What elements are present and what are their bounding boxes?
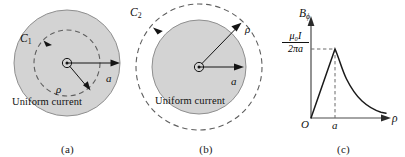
uniform-current-label-a: Uniform current [12,97,82,108]
b-phi-curve [311,49,386,118]
uniform-current-label-b: Uniform current [155,96,225,107]
caption-c: (c) [282,143,405,155]
panel-b-diagram [130,0,282,140]
panel-c-field-plot: Bϕ μ₀I 2πa O a ρ (c) [282,0,405,157]
x-axis-arrowhead [381,114,391,121]
panel-b-outside-loop: C2 ρ a Uniform current (b) [130,0,282,157]
x-axis-label: ρ [392,113,398,125]
y-tick-value: μ₀I 2πa [282,31,309,55]
rho-label-b: ρ [245,24,250,35]
x-tick-label-a: a [332,120,338,131]
y-tick-numerator: μ₀I [282,31,309,42]
radius-a-label: a [106,73,112,84]
physics-figure: C1 ρ a Uniform current (a) C2 ρ a U [0,0,405,157]
caption-b: (b) [130,143,282,155]
amperian-loop-c1-label: C1 [20,33,32,46]
amperian-loop-c2-label: C2 [130,7,142,20]
panel-a-diagram [0,0,135,135]
caption-a: (a) [0,143,135,155]
y-tick-denominator: 2πa [282,44,309,55]
rho-label-a: ρ [56,84,61,95]
y-axis-label: Bϕ [299,8,310,21]
origin-label: O [301,119,309,130]
radius-rho-arrowhead [231,23,241,32]
panel-a-inside-loop: C1 ρ a Uniform current (a) [0,0,135,157]
amperian-loop-c2-arrowhead [153,28,163,35]
radius-a-label: a [231,76,237,87]
